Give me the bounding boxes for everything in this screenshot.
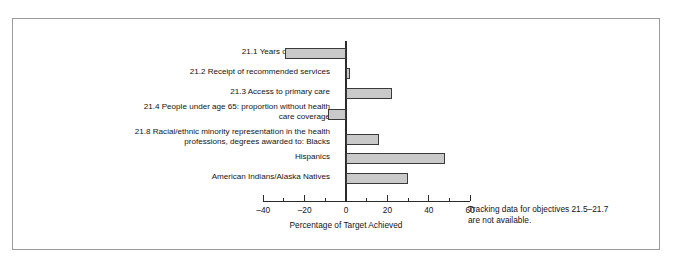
chart-frame: 21.1 Years of healthy life 21.2 Receipt … (12, 18, 660, 250)
category-label: 21.2 Receipt of recommended services (190, 67, 330, 77)
bar (346, 68, 350, 79)
x-axis-tick (304, 195, 305, 201)
category-label: Hispanics (295, 152, 330, 162)
chart-annotation: Tracking data for objectives 21.5–21.7 a… (468, 204, 608, 226)
category-label: 21.4 People under age 65: proportion wit… (144, 102, 330, 121)
x-axis-tick (346, 195, 347, 201)
x-axis-tick (428, 195, 429, 201)
x-axis-tick (408, 198, 409, 202)
bar (285, 48, 346, 59)
bar (346, 88, 392, 99)
category-label: 21.8 Racial/ethnic minority representati… (135, 127, 330, 146)
x-axis-tick-label: –20 (285, 205, 325, 215)
x-axis-line (263, 201, 470, 202)
x-axis-tick (470, 195, 471, 201)
x-axis-tick-label: 0 (326, 205, 366, 215)
x-axis-tick-label: 40 (409, 205, 449, 215)
x-axis-tick (325, 198, 326, 202)
category-label: American Indians/Alaska Natives (212, 172, 330, 182)
plot-area: 21.1 Years of healthy life 21.2 Receipt … (13, 19, 661, 251)
x-axis-tick (366, 198, 367, 202)
bar (346, 134, 379, 145)
x-axis-tick (283, 198, 284, 202)
category-label: 21.3 Access to primary care (230, 87, 330, 97)
bar (346, 173, 408, 184)
bar (328, 109, 346, 120)
x-axis-tick-label: 20 (367, 205, 407, 215)
x-axis-title: Percentage of Target Achieved (216, 220, 476, 230)
x-axis-tick (263, 195, 264, 201)
x-axis-tick (449, 198, 450, 202)
x-axis-tick (387, 195, 388, 201)
x-axis-tick-label: –40 (243, 205, 283, 215)
bar (346, 153, 445, 164)
